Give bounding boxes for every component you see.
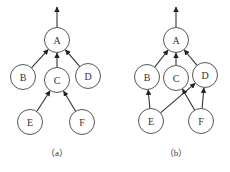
edge-f-to-c — [64, 91, 76, 111]
edge-f-to-d — [202, 88, 204, 109]
edge-d-to-a — [184, 50, 197, 65]
node-c: C — [45, 68, 70, 93]
node-label: A — [53, 35, 61, 46]
edge-b-to-a — [155, 50, 168, 67]
node-f: F — [189, 109, 214, 134]
node-label: F — [198, 116, 204, 127]
node-e: E — [139, 109, 164, 134]
node-label: D — [84, 71, 91, 82]
edge-e-to-b — [148, 90, 150, 109]
node-label: B — [20, 72, 27, 83]
node-a: A — [45, 28, 70, 53]
node-a: A — [164, 28, 189, 53]
diagram-canvas: ABCDEF（a） ABCDEF（b） — [0, 0, 230, 172]
edge-b-to-a — [31, 50, 48, 68]
diagram-a: ABCDEF（a） — [11, 7, 101, 158]
node-label: A — [172, 35, 180, 46]
node-b: B — [11, 65, 36, 90]
node-label: C — [54, 75, 61, 86]
node-d: D — [76, 64, 101, 89]
node-e: E — [18, 110, 43, 135]
node-label: E — [148, 116, 154, 127]
node-c: C — [164, 66, 189, 91]
edge-d-to-a — [65, 50, 79, 67]
edge-f-to-c — [183, 89, 195, 110]
node-label: D — [201, 70, 208, 81]
node-label: C — [173, 73, 180, 84]
node-b: B — [135, 65, 160, 90]
diagram-caption: （a） — [46, 148, 68, 158]
node-label: E — [27, 117, 33, 128]
node-label: B — [144, 72, 151, 83]
diagram-caption: （b） — [165, 148, 188, 158]
node-label: F — [79, 117, 85, 128]
edge-e-to-c — [37, 91, 50, 112]
node-f: F — [70, 110, 95, 135]
node-d: D — [193, 63, 218, 88]
diagram-b: ABCDEF（b） — [135, 7, 218, 158]
